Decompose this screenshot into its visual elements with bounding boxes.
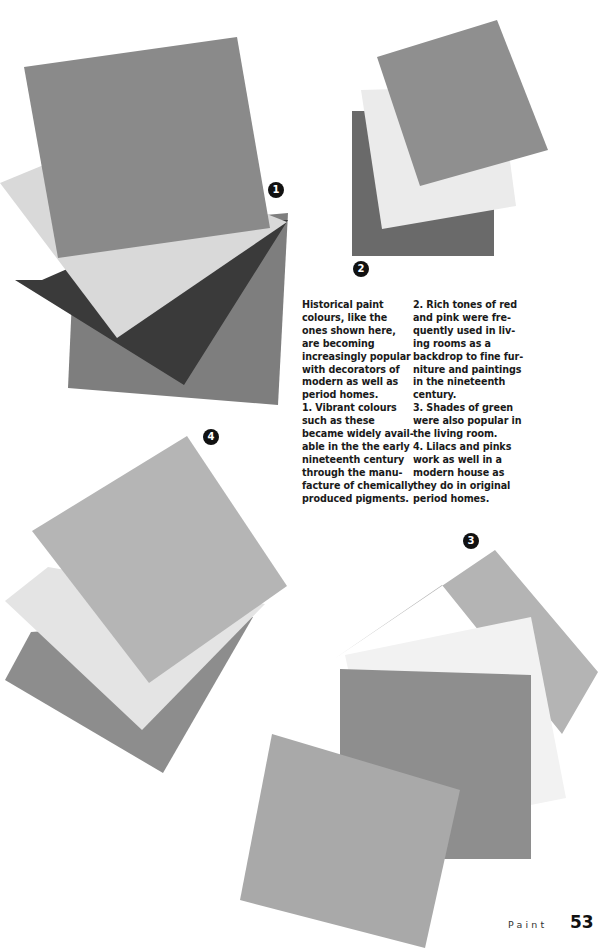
caption-line: the living room. <box>413 428 513 441</box>
caption-left-column: Historical paintcolours, like theones sh… <box>302 299 402 506</box>
caption-line: backdrop to fine fur- <box>413 351 513 364</box>
caption-line: with decorators of <box>302 364 402 377</box>
swatch-group-3 <box>240 550 598 948</box>
number-badge-3: 3 <box>463 533 479 549</box>
swatch-group-4 <box>5 436 287 773</box>
caption-line: facture of chemically <box>302 480 402 493</box>
number-badge-2: 2 <box>353 261 369 277</box>
caption-line: became widely avail- <box>302 428 402 441</box>
caption-line: niture and paintings <box>413 364 513 377</box>
caption-line: are becoming <box>302 338 402 351</box>
caption-line: they do in original <box>413 480 513 493</box>
caption-line: ones shown here, <box>302 325 402 338</box>
caption-line: quently used in liv- <box>413 325 513 338</box>
swatch-group-2 <box>352 20 548 256</box>
caption-line: through the manu- <box>302 467 402 480</box>
caption-line: in the nineteenth <box>413 376 513 389</box>
number-badge-1: 1 <box>268 182 284 198</box>
caption-line: colours, like the <box>302 312 402 325</box>
caption-line: increasingly popular <box>302 351 402 364</box>
caption-line: period homes. <box>413 493 513 506</box>
caption-line: Historical paint <box>302 299 402 312</box>
caption-line: period homes. <box>302 389 402 402</box>
swatch-group-1 <box>0 37 288 405</box>
caption-line: and pink were fre- <box>413 312 513 325</box>
swatch-medium-grey-front <box>24 37 270 258</box>
caption-line: produced pigments. <box>302 493 402 506</box>
number-badge-4: 4 <box>203 429 219 445</box>
caption-line: 2. Rich tones of red <box>413 299 513 312</box>
caption-line: were also popular in <box>413 415 513 428</box>
caption-line: able in the the early <box>302 441 402 454</box>
caption-line: ing rooms as a <box>413 338 513 351</box>
caption-line: modern as well as <box>302 376 402 389</box>
caption-line: century. <box>413 389 513 402</box>
caption-line: 3. Shades of green <box>413 402 513 415</box>
caption-line: 1. Vibrant colours <box>302 402 402 415</box>
caption-line: work as well in a <box>413 454 513 467</box>
caption-line: 4. Lilacs and pinks <box>413 441 513 454</box>
running-footer-section-title: Paint <box>508 919 548 930</box>
caption-line: modern house as <box>413 467 513 480</box>
caption-line: nineteenth century <box>302 454 402 467</box>
caption-right-column: 2. Rich tones of redand pink were fre-qu… <box>413 299 513 506</box>
caption-line: such as these <box>302 415 402 428</box>
page-number: 53 <box>570 912 594 932</box>
